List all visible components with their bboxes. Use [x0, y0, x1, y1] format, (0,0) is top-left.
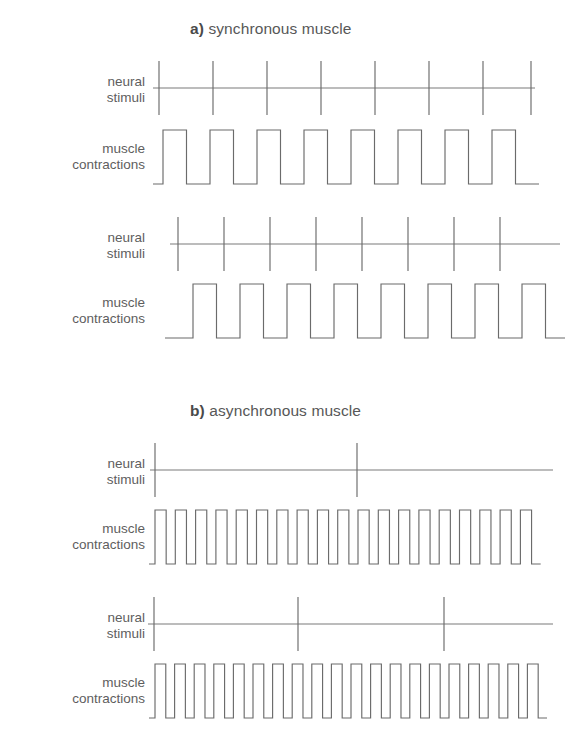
trace-plot-b-muscle-contractions-1: [145, 504, 565, 570]
trace-row-a-neural-stimuli-1: neuralstimuli: [0, 58, 582, 118]
trace-label-line: stimuli: [0, 246, 145, 262]
trace-plot-a-neural-stimuli-2: [145, 214, 565, 274]
trace-label-line: contractions: [0, 157, 145, 173]
trace-label-line: stimuli: [0, 90, 145, 106]
trace-row-b-muscle-contractions-2: musclecontractions: [0, 658, 582, 724]
trace-label-neural-stimuli: neuralstimuli: [0, 74, 145, 105]
trace-label-line: muscle: [0, 295, 145, 311]
trace-label-line: neural: [0, 74, 145, 90]
trace-label-neural-stimuli: neuralstimuli: [0, 610, 145, 641]
trace-label-neural-stimuli: neuralstimuli: [0, 230, 145, 261]
trace-label-line: muscle: [0, 141, 145, 157]
trace-label-line: neural: [0, 610, 145, 626]
panel-heading-b: b) asynchronous muscle: [190, 402, 361, 420]
trace-label-line: neural: [0, 456, 145, 472]
trace-label-muscle-contractions: musclecontractions: [0, 295, 145, 326]
trace-row-a-neural-stimuli-2: neuralstimuli: [0, 214, 582, 274]
panel-letter-b: b): [190, 402, 205, 419]
contraction-waveform: [165, 284, 565, 338]
panel-heading-a: a) synchronous muscle: [190, 20, 352, 38]
trace-row-a-muscle-contractions-1: musclecontractions: [0, 124, 582, 190]
trace-label-line: contractions: [0, 691, 145, 707]
trace-row-b-muscle-contractions-1: musclecontractions: [0, 504, 582, 570]
panel-letter-a: a): [190, 20, 204, 37]
muscle-physiology-figure: a) synchronous muscle b) asynchronous mu…: [0, 0, 582, 747]
trace-label-line: stimuli: [0, 626, 145, 642]
trace-plot-b-neural-stimuli-2: [145, 594, 565, 654]
contraction-waveform: [149, 664, 547, 718]
trace-label-muscle-contractions: musclecontractions: [0, 675, 145, 706]
trace-row-b-neural-stimuli-2: neuralstimuli: [0, 594, 582, 654]
panel-title-a: synchronous muscle: [208, 20, 351, 37]
trace-label-line: contractions: [0, 537, 145, 553]
contraction-waveform: [149, 510, 541, 564]
trace-row-b-neural-stimuli-1: neuralstimuli: [0, 440, 582, 500]
trace-label-line: muscle: [0, 521, 145, 537]
trace-label-neural-stimuli: neuralstimuli: [0, 456, 145, 487]
trace-plot-a-muscle-contractions-1: [145, 124, 545, 190]
trace-label-line: contractions: [0, 311, 145, 327]
trace-plot-a-muscle-contractions-2: [145, 278, 565, 344]
trace-label-muscle-contractions: musclecontractions: [0, 141, 145, 172]
trace-plot-b-muscle-contractions-2: [145, 658, 565, 724]
trace-plot-a-neural-stimuli-1: [145, 58, 545, 118]
trace-label-line: neural: [0, 230, 145, 246]
trace-label-line: muscle: [0, 675, 145, 691]
trace-plot-b-neural-stimuli-1: [145, 440, 565, 500]
trace-row-a-muscle-contractions-2: musclecontractions: [0, 278, 582, 344]
trace-label-muscle-contractions: musclecontractions: [0, 521, 145, 552]
contraction-waveform: [153, 130, 539, 184]
panel-title-b: asynchronous muscle: [209, 402, 361, 419]
trace-label-line: stimuli: [0, 472, 145, 488]
